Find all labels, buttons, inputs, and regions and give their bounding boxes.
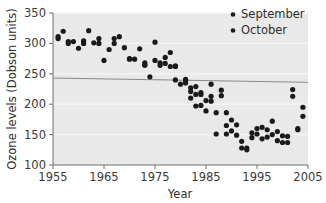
data-point: [270, 119, 275, 124]
data-point: [295, 127, 300, 132]
y-tick-label-250: 250: [24, 67, 46, 81]
data-point: [239, 145, 244, 150]
data-point: [81, 41, 86, 46]
data-point: [112, 36, 117, 41]
data-point: [168, 50, 173, 55]
data-point: [137, 46, 142, 51]
data-point: [265, 127, 270, 132]
data-point: [183, 80, 188, 85]
legend-marker-september: [231, 12, 236, 17]
x-tick-label-1955: 1955: [38, 170, 67, 184]
data-point: [107, 47, 112, 52]
data-point: [249, 130, 254, 135]
data-point: [219, 88, 224, 93]
data-point: [61, 29, 66, 34]
data-point: [260, 136, 265, 141]
data-point: [66, 41, 71, 46]
y-axis-title: Ozone levels (Dobson units): [5, 8, 19, 170]
data-point: [275, 138, 280, 143]
data-point: [239, 139, 244, 144]
data-point: [234, 133, 239, 138]
data-point: [163, 61, 168, 66]
data-point: [112, 41, 117, 46]
data-point: [152, 40, 157, 45]
data-point: [188, 96, 193, 101]
data-point: [300, 114, 305, 119]
data-point: [234, 122, 239, 127]
x-tick-label-1965: 1965: [89, 170, 118, 184]
data-point: [127, 56, 132, 61]
x-tick-label-1985: 1985: [191, 170, 220, 184]
x-axis-title: Year: [167, 187, 193, 201]
x-tick-label-1975: 1975: [140, 170, 169, 184]
data-point: [229, 128, 234, 133]
data-point: [229, 117, 234, 122]
data-point: [178, 82, 183, 87]
data-point: [203, 108, 208, 113]
data-point: [224, 131, 229, 136]
y-tick-label-150: 150: [24, 128, 46, 142]
chart-canvas: 100150200250300350 195519651975198519952…: [0, 0, 326, 203]
x-tick-label-1995: 1995: [242, 170, 271, 184]
data-point: [101, 58, 106, 63]
y-tick-label-350: 350: [24, 6, 46, 20]
data-point: [244, 145, 249, 150]
data-point: [122, 45, 127, 50]
data-point: [290, 87, 295, 92]
data-point: [254, 131, 259, 136]
y-tick-label-200: 200: [24, 97, 46, 111]
x-tick-label-2005: 2005: [293, 170, 322, 184]
data-point: [86, 28, 91, 33]
ozone-scatter-chart-figure: 100150200250300350 195519651975198519952…: [0, 0, 326, 203]
data-point: [285, 140, 290, 145]
data-point: [147, 74, 152, 79]
data-point: [224, 110, 229, 115]
data-point: [260, 125, 265, 130]
data-point: [142, 63, 147, 68]
data-point: [76, 46, 81, 51]
data-point: [173, 77, 178, 82]
data-point: [56, 36, 61, 41]
data-point: [224, 123, 229, 128]
data-point: [275, 129, 280, 134]
data-point: [290, 94, 295, 99]
data-point: [132, 57, 137, 62]
data-point: [193, 103, 198, 108]
data-point: [209, 99, 214, 104]
legend-label-september: September: [241, 7, 305, 21]
data-point: [168, 64, 173, 69]
data-point: [214, 131, 219, 136]
data-point: [71, 39, 76, 44]
data-point: [198, 92, 203, 97]
data-point: [254, 126, 259, 131]
data-point: [91, 40, 96, 45]
data-point: [117, 34, 122, 39]
data-point: [270, 132, 275, 137]
data-point: [214, 110, 219, 115]
legend-marker-october: [231, 28, 236, 33]
data-point: [188, 89, 193, 94]
data-point: [198, 103, 203, 108]
data-point: [300, 105, 305, 110]
data-point: [152, 58, 157, 63]
data-point: [193, 84, 198, 89]
data-point: [280, 133, 285, 138]
data-point: [265, 134, 270, 139]
data-point: [249, 135, 254, 140]
legend-label-october: October: [241, 23, 287, 37]
data-point: [219, 93, 224, 98]
data-point: [285, 134, 290, 139]
y-tick-label-300: 300: [24, 36, 46, 50]
data-point: [96, 41, 101, 46]
data-point: [193, 92, 198, 97]
data-point: [173, 64, 178, 69]
data-point: [163, 55, 168, 60]
data-point: [158, 63, 163, 68]
data-point: [209, 94, 214, 99]
data-point: [209, 82, 214, 87]
data-point: [280, 140, 285, 145]
data-point: [203, 98, 208, 103]
data-point: [96, 36, 101, 41]
